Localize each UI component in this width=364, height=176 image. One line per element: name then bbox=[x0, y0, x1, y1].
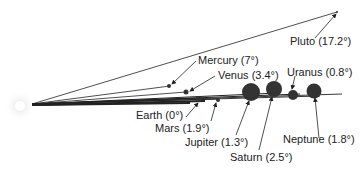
venus-body bbox=[184, 90, 189, 95]
pluto-label: Pluto (17.2°) bbox=[290, 35, 351, 47]
uranus-label: Uranus (0.8°) bbox=[287, 66, 353, 78]
saturn-label: Saturn (2.5°) bbox=[230, 151, 292, 163]
venus-label: Venus (3.4°) bbox=[218, 69, 279, 81]
mars-label: Mars (1.9°) bbox=[155, 122, 210, 134]
saturn-body bbox=[266, 81, 282, 97]
sun bbox=[4, 90, 36, 122]
neptune-label: Neptune (1.8°) bbox=[283, 133, 355, 145]
orbital-inclination-diagram bbox=[0, 0, 364, 176]
earth-body bbox=[196, 96, 202, 102]
jupiter-body bbox=[242, 83, 260, 101]
mars-body bbox=[216, 98, 220, 102]
pluto-body bbox=[336, 11, 338, 13]
neptune-body bbox=[307, 84, 322, 99]
mercury-body bbox=[167, 84, 171, 88]
mercury-label: Mercury (7°) bbox=[198, 54, 259, 66]
earth-label: Earth (0°) bbox=[136, 109, 183, 121]
jupiter-label: Jupiter (1.3°) bbox=[185, 136, 248, 148]
uranus-body bbox=[288, 90, 298, 100]
